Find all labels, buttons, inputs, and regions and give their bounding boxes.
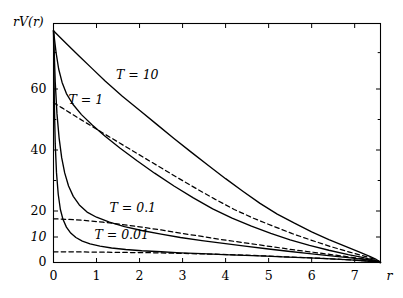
y-tick-label: 20: [31, 203, 47, 218]
x-tick-label: 5: [265, 268, 273, 283]
y-tick-label: 40: [31, 142, 47, 157]
x-tick-label: 6: [308, 268, 316, 283]
curve-annotation-t-1: T = 1: [69, 92, 104, 107]
x-tick-label: 2: [136, 268, 144, 283]
x-tick-label: 4: [222, 268, 230, 283]
y-axis-label: rV(r): [13, 14, 44, 29]
y-tick-label: 0: [39, 254, 47, 269]
figure: 01020406001234567rV(r)rT = 10T = 1T = 0.…: [0, 0, 403, 298]
x-axis-label: r: [387, 268, 393, 283]
plot-canvas: [0, 0, 403, 298]
x-tick-label: 3: [179, 268, 187, 283]
curve-annotation-t-0.01: T = 0.01: [94, 227, 149, 242]
y-tick-label: 60: [31, 81, 47, 96]
curve-annotation-t-0.1: T = 0.1: [109, 200, 156, 215]
y-tick-label: 10: [31, 229, 47, 244]
curve-annotation-t-10: T = 10: [116, 67, 159, 82]
x-tick-label: 7: [351, 268, 359, 283]
x-tick-label: 0: [50, 268, 58, 283]
x-tick-label: 1: [93, 268, 101, 283]
curve-t-0-01-asymptote: [54, 252, 381, 263]
